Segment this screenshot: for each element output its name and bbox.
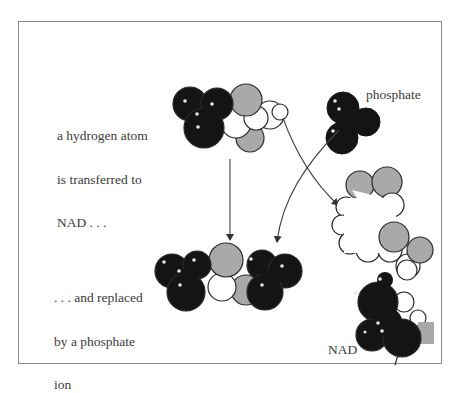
substrate-molecule-top [173, 84, 288, 152]
nad-molecule [332, 167, 434, 365]
product-molecule-bottom [155, 243, 302, 311]
phosphate-ion [326, 92, 380, 154]
